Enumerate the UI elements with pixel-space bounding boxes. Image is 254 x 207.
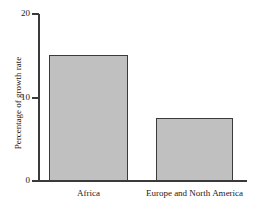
bar-europe-and-north-america — [156, 118, 233, 181]
x-axis-label-europe-and-north-america: Europe and North America — [134, 188, 254, 199]
y-tick-mark-10 — [32, 97, 39, 99]
y-tick-mark-0 — [32, 180, 39, 182]
y-tick-label-20: 20 — [21, 9, 30, 18]
y-tick-mark-20 — [32, 13, 39, 15]
y-tick-label-10: 10 — [21, 93, 30, 102]
y-tick-label-0: 0 — [26, 176, 31, 185]
clipped-title-text — [0, 0, 254, 3]
x-axis-label-africa: Africa — [49, 188, 128, 199]
bar-chart-figure: Percentage of growth rate 20 10 0 Africa… — [0, 0, 254, 207]
y-axis-title: Percentage of growth rate — [13, 33, 23, 173]
bar-africa — [49, 55, 128, 181]
